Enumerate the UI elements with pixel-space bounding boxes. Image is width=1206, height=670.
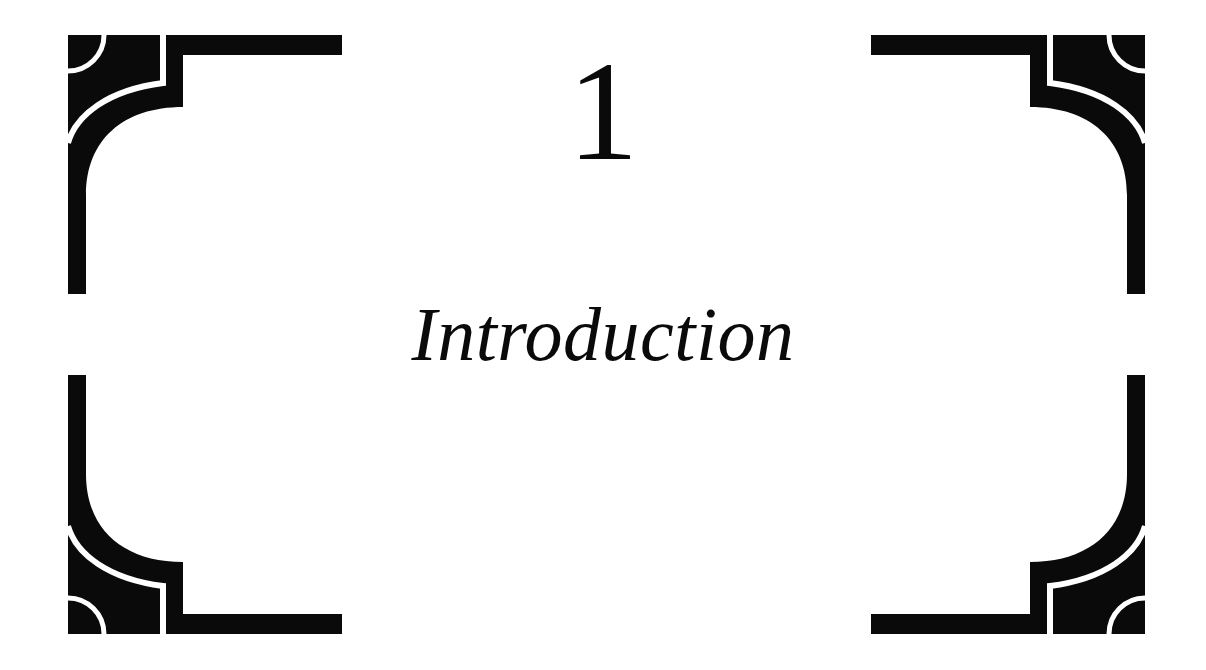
chapter-title: Introduction [0,296,1206,372]
chapter-title-page: 1 Introduction [0,0,1206,670]
corner-ornament-bottom-right-icon [869,374,1145,634]
corner-ornament-bottom-left-icon [68,374,344,634]
chapter-number: 1 [0,40,1206,182]
